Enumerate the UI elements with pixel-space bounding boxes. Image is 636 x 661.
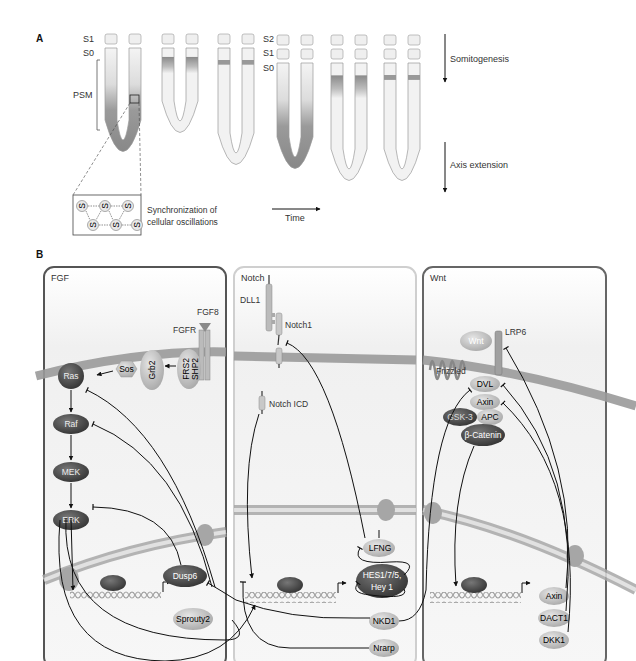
somite (277, 35, 289, 45)
somite (355, 35, 367, 45)
svg-text:S: S (77, 203, 87, 209)
axin-complex-label: Axin (477, 397, 494, 407)
label-s1-mid: S1 (263, 48, 274, 58)
panel-a-letter: A (36, 33, 43, 44)
psm-bracket (97, 60, 100, 130)
label-psm: PSM (73, 90, 93, 100)
beta-catenin-label: β-Catenin (464, 430, 501, 440)
somite (355, 49, 367, 59)
somite (242, 34, 254, 44)
psm-shape (105, 34, 141, 152)
wnt-panel-title: Wnt (430, 273, 447, 283)
shp2-label: SHP2 (190, 358, 200, 380)
svg-text:S: S (111, 222, 121, 228)
sos-label: Sos (119, 364, 134, 374)
wnt-transcription-factor (461, 577, 487, 593)
psm-shape (277, 35, 313, 169)
dll1-label: DLL1 (240, 295, 261, 305)
somite (218, 34, 230, 44)
lrp6-label: LRP6 (505, 327, 527, 337)
somitogenesis-signaling-figure: A S1 S0 PSM S2 S1 S0 Somitogenesis Axis … (0, 0, 636, 661)
fgf-transcription-factor (100, 575, 126, 591)
somite (129, 34, 141, 44)
nrarp-label: Nrarp (373, 643, 395, 653)
svg-text:S: S (123, 203, 133, 209)
notch-icd-label: Notch ICD (269, 399, 308, 409)
inset-caption-line1: Synchronization of (147, 205, 218, 215)
psm-shape (331, 35, 367, 181)
mek-label: MEK (62, 467, 81, 477)
sprouty2-label: Sprouty2 (176, 614, 210, 624)
somite (301, 35, 313, 45)
somite (301, 49, 313, 59)
hey1-label: Hey 1 (371, 582, 393, 592)
label-s0-mid: S0 (263, 63, 274, 73)
notch-cell-membrane (234, 356, 416, 360)
psm-shape (162, 34, 198, 133)
somite (384, 49, 396, 59)
ras-label: Ras (63, 371, 78, 381)
dusp6-label: Dusp6 (173, 571, 198, 581)
dvl-label: DVL (477, 379, 494, 389)
svg-text:S: S (100, 203, 110, 209)
fgfr-label: FGFR (173, 325, 196, 335)
somitogenesis-label: Somitogenesis (450, 54, 510, 64)
somite (186, 34, 198, 44)
hes-label: HES1/7/5, (363, 570, 402, 580)
lfng-label: LFNG (369, 543, 392, 553)
fgf-panel-title: FGF (51, 273, 69, 283)
axin-target-label: Axin (546, 591, 563, 601)
svg-text:S: S (132, 222, 142, 228)
somite (105, 34, 117, 44)
somite (331, 35, 343, 45)
apc-label: APC (481, 412, 498, 422)
psm-shape (384, 35, 420, 181)
dkk1-label: DKK1 (543, 635, 565, 645)
frizzled-label: Frizzled (436, 366, 466, 376)
panel-b: B FGF Notch Wnt (36, 249, 636, 661)
somite (331, 49, 343, 59)
somite (277, 49, 289, 59)
axis-extension-label: Axis extension (450, 160, 508, 170)
wnt-ligand-label: Wnt (468, 336, 484, 346)
panel-b-letter: B (36, 249, 43, 260)
synchronization-inset: SSSSSS (73, 195, 143, 235)
somite (408, 49, 420, 59)
grb2-label: Grb2 (147, 360, 157, 379)
panel-a: A S1 S0 PSM S2 S1 S0 Somitogenesis Axis … (36, 33, 510, 235)
notch-transcription-factor (277, 577, 303, 593)
lrp6-coreceptor (495, 331, 502, 375)
svg-text:S: S (88, 222, 98, 228)
somite (162, 34, 174, 44)
inset-caption-line2: cellular oscillations (147, 217, 218, 227)
notch1-label: Notch1 (285, 320, 312, 330)
label-s0-left: S0 (83, 48, 94, 58)
nkd1-label: NKD1 (373, 616, 396, 626)
fgf8-label: FGF8 (197, 307, 219, 317)
label-s2-mid: S2 (263, 34, 274, 44)
dact1-label: DACT1 (540, 613, 568, 623)
time-label: Time (285, 213, 305, 223)
raf-label: Raf (64, 419, 78, 429)
psm-shape (218, 34, 254, 165)
label-s1-left: S1 (83, 34, 94, 44)
somite (384, 35, 396, 45)
somite (408, 35, 420, 45)
